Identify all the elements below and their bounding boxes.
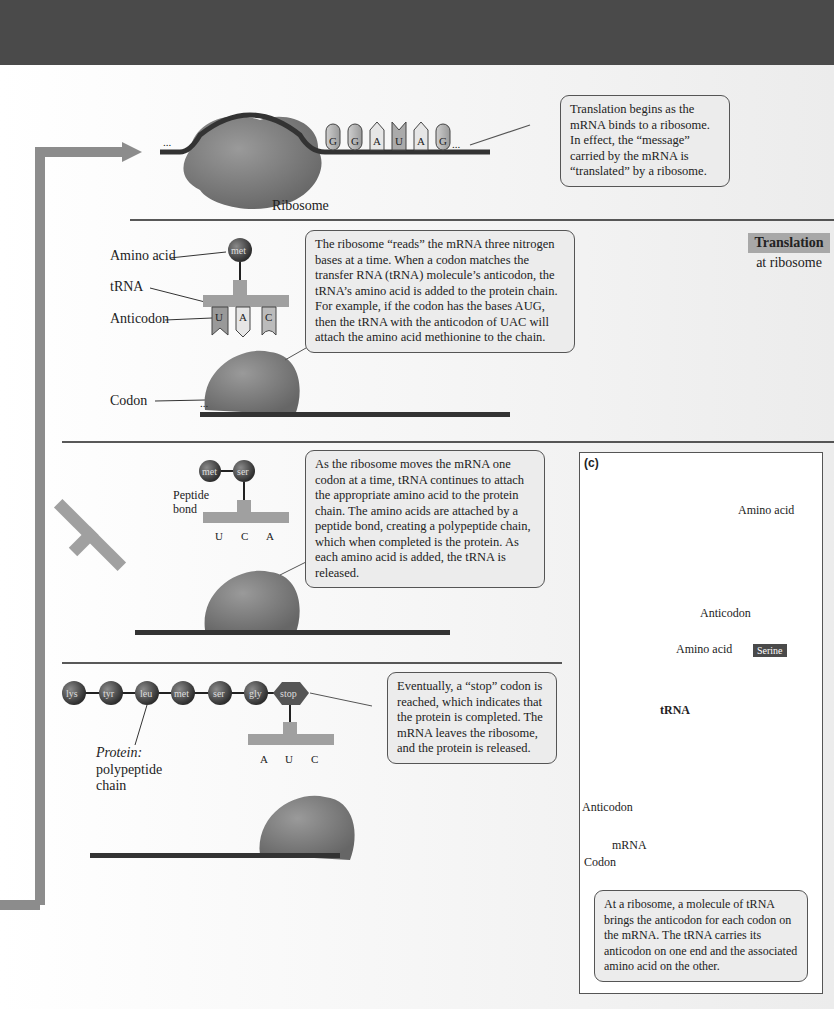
svg-text:tyr: tyr <box>103 688 115 699</box>
ribosome-label: Ribosome <box>272 198 329 214</box>
svg-text:G: G <box>351 135 359 147</box>
svg-text:met: met <box>174 688 189 699</box>
panel-anticodon-label: Anticodon <box>582 800 633 815</box>
anticodon-label: Anticodon <box>110 311 169 327</box>
svg-text:gly: gly <box>249 688 262 699</box>
svg-text:A: A <box>266 530 274 542</box>
panel-mrna-label: mRNA <box>612 838 647 853</box>
step3-ribosome <box>205 571 300 635</box>
panel-codon-label: Codon <box>584 855 616 870</box>
panel-c-label: (c) <box>584 456 599 470</box>
step2-mrna-bases: ... <box>200 397 209 409</box>
svg-text:U: U <box>215 311 223 323</box>
panel-amino-acid-label: Amino acid <box>676 642 732 657</box>
svg-text:lys: lys <box>66 688 78 699</box>
svg-text:U: U <box>215 530 223 542</box>
svg-text:C: C <box>311 753 318 765</box>
step4-ribosome <box>260 796 355 860</box>
step1-callout: Translation begins as the mRNA binds to … <box>560 95 730 187</box>
protein-label-italic: Protein: <box>96 745 142 761</box>
svg-text:...: ... <box>200 397 209 409</box>
step2-callout: The ribosome “reads” the mRNA three nitr… <box>305 230 575 353</box>
serine-tag: Serine <box>753 644 787 657</box>
svg-text:stop: stop <box>280 688 297 699</box>
polypeptide-chain: lys tyr leu met ser gly stop <box>62 681 309 705</box>
svg-text:ser: ser <box>237 466 249 477</box>
svg-text:...: ... <box>163 136 172 148</box>
panel-trna-label: tRNA <box>660 703 690 718</box>
peptide-bond-label: Peptide bond <box>173 488 223 516</box>
svg-text:C: C <box>241 530 248 542</box>
svg-text:leu: leu <box>140 688 152 699</box>
svg-text:G: G <box>439 135 447 147</box>
svg-text:A: A <box>417 135 425 147</box>
svg-text:...: ... <box>452 138 461 150</box>
model-anticodon-label: Anticodon <box>700 606 751 621</box>
amino-acid-label: Amino acid <box>110 248 176 264</box>
step3-callout: As the ribosome moves the mRNA one codon… <box>305 450 545 588</box>
section-tag-subtitle: at ribosome <box>748 255 830 271</box>
released-trna <box>41 499 126 584</box>
step2-anticodon: UAC <box>212 307 276 337</box>
step2-ribosome <box>205 351 300 415</box>
svg-text:met: met <box>202 466 217 477</box>
svg-text:U: U <box>395 135 403 147</box>
model-amino-acid-label: Amino acid <box>738 503 794 518</box>
panel-c-callout: At a ribosome, a molecule of tRNA brings… <box>594 890 808 982</box>
svg-text:A: A <box>239 311 247 323</box>
trna-label: tRNA <box>110 279 143 295</box>
svg-text:A: A <box>373 135 381 147</box>
svg-text:met: met <box>231 245 246 256</box>
svg-text:G: G <box>329 135 337 147</box>
codon-label: Codon <box>110 393 147 409</box>
svg-text:C: C <box>265 311 272 323</box>
step4-callout: Eventually, a “stop” codon is reached, w… <box>387 672 557 764</box>
protein-label: polypeptide chain <box>96 762 176 794</box>
svg-text:ser: ser <box>213 688 225 699</box>
section-tag-title: Translation <box>748 233 830 253</box>
svg-text:U: U <box>285 753 293 765</box>
svg-text:A: A <box>260 753 268 765</box>
